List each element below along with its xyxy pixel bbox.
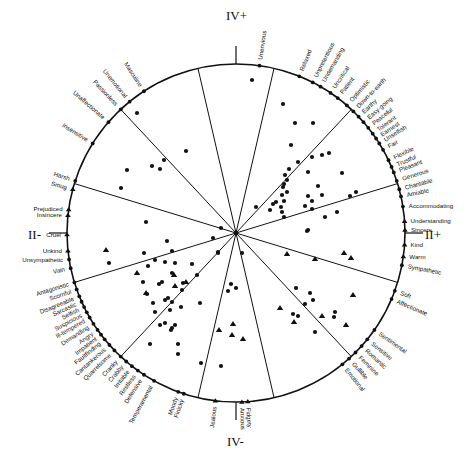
data-point-dot [168, 308, 172, 312]
rim-marker-dot [366, 126, 370, 130]
spoke-line [198, 233, 236, 398]
rim-labels: UnenviousRelaxedUnpretentiousUndemanding… [22, 30, 454, 430]
rim-marker-dot [136, 369, 140, 373]
trait-label: Anxious [239, 408, 247, 430]
data-point-triangle [319, 313, 325, 318]
data-point-dot [311, 121, 315, 125]
data-point-dot [119, 186, 123, 190]
data-point-dot [163, 260, 167, 264]
data-point-dot [296, 314, 300, 318]
data-point-dot [310, 155, 314, 159]
data-point-dot [335, 210, 339, 214]
data-point-dot [234, 286, 238, 290]
trait-label: Vain [52, 265, 66, 274]
rim-marker-triangle [66, 207, 72, 211]
data-point-dot [340, 171, 344, 175]
rim-marker-dot [401, 205, 405, 209]
data-point-dot [144, 220, 148, 224]
data-point-dot [285, 190, 289, 194]
data-point-dot [176, 352, 180, 356]
data-point-dot [107, 261, 111, 265]
data-point-dot [142, 251, 146, 255]
data-point-dot [180, 288, 184, 292]
rim-marker-dot [182, 392, 186, 396]
rim-marker-triangle [70, 187, 76, 191]
trait-label: Sympathetic [407, 262, 442, 275]
data-point-dot [173, 323, 177, 327]
rim-marker-dot [393, 289, 397, 293]
spoke-line [236, 233, 274, 398]
data-point-triangle [103, 247, 109, 252]
data-point-dot [184, 149, 188, 153]
data-point-triangle [134, 270, 140, 275]
data-point-dot [176, 342, 180, 346]
trait-label: Unenvious [256, 30, 267, 60]
rim-marker-dot [69, 266, 73, 270]
data-point-dot [211, 236, 215, 240]
trait-label: Affectionate [396, 298, 429, 317]
rim-marker-dot [365, 337, 369, 341]
data-point-dot [333, 310, 337, 314]
rim-marker-dot [360, 344, 364, 348]
data-point-dot [320, 153, 324, 157]
data-point-dot [354, 190, 358, 194]
rim-marker-dot [387, 158, 391, 162]
data-point-dot [125, 168, 129, 172]
data-point-dot [281, 185, 285, 189]
data-point-dot [282, 215, 286, 219]
data-point-dot [303, 204, 307, 208]
rim-marker-dot [130, 364, 134, 368]
rim-marker-dot [99, 333, 103, 337]
data-point-triangle [216, 327, 222, 332]
data-point-dot [153, 310, 157, 314]
rim-marker-dot [85, 310, 89, 314]
data-point-dot [240, 251, 244, 255]
data-point-dot [163, 321, 167, 325]
rim-marker-dot [390, 297, 394, 301]
data-point-dot [163, 298, 167, 302]
rim-marker-dot [297, 74, 301, 78]
data-point-dot [283, 173, 287, 177]
data-point-dot [289, 143, 293, 147]
rim-marker-dot [395, 179, 399, 183]
data-point-dot [305, 229, 309, 233]
axis-label-ii-minus: II- [28, 227, 41, 242]
data-point-dot [199, 361, 203, 365]
rim-marker-dot [91, 142, 95, 146]
trait-label: Unaffectionate [72, 89, 107, 121]
data-point-dot [148, 342, 152, 346]
data-point-dot [198, 301, 202, 305]
data-point-dot [320, 193, 324, 197]
data-point-triangle [291, 319, 297, 324]
rim-marker-dot [107, 120, 111, 124]
data-point-dot [160, 280, 164, 284]
trait-label: Cruel [46, 231, 61, 238]
data-point-dot [153, 258, 157, 262]
data-point-dot [279, 205, 283, 209]
data-point-dot [294, 286, 298, 290]
rim-marker-dot [108, 343, 112, 347]
data-point-dot [310, 207, 314, 211]
rim-marker-triangle [65, 213, 71, 217]
rim-marker-dot [351, 110, 355, 114]
rim-marker-dot [399, 195, 403, 199]
axis-label-ii-plus: II+ [425, 227, 441, 242]
rim-marker-dot [258, 64, 262, 68]
data-point-dot [280, 193, 284, 197]
rim-marker-dot [75, 288, 79, 292]
data-point-dot [327, 151, 331, 155]
rim-marker-dot [82, 305, 86, 309]
rim-marker-dot [362, 120, 366, 124]
data-point-dot [303, 302, 307, 306]
spoke-line [236, 109, 351, 233]
trait-label: Insincere [37, 211, 63, 218]
interior-points [103, 78, 358, 368]
spoke-line [74, 233, 236, 282]
trait-label: Accommodating [409, 202, 454, 209]
data-point-dot [226, 289, 230, 293]
spoke-line [236, 184, 398, 233]
data-point-dot [285, 178, 289, 182]
trait-label: Smug [51, 180, 69, 191]
rim-marker-dot [96, 328, 100, 332]
data-point-dot [287, 167, 291, 171]
